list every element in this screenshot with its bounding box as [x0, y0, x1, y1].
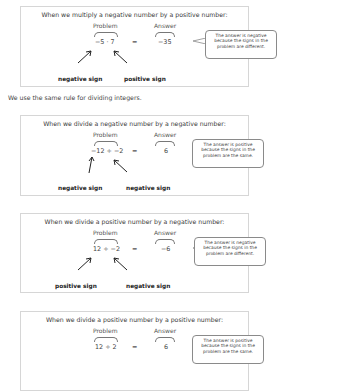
problem-expression: −5 · 7 [95, 38, 115, 46]
explanation-callout: The answer is positive because the signs… [192, 139, 264, 168]
left-sign-label: negative sign [58, 185, 102, 191]
rule-heading: When we divide a negative number by a ne… [21, 120, 248, 127]
answer-label: Answer [154, 327, 176, 334]
arrow-right-icon [113, 50, 129, 64]
rule-heading: When we divide a positive number by a po… [21, 316, 248, 323]
rule-box-divide-neg-neg: When we divide a negative number by a ne… [20, 115, 249, 196]
rule-box-divide-pos-pos: When we divide a positive number by a po… [20, 311, 249, 391]
equals-sign: = [132, 343, 137, 351]
answer-value: −35 [158, 38, 172, 46]
problem-label: Problem [93, 22, 118, 29]
intro-sentence: We use the same rule for dividing intege… [8, 94, 142, 101]
answer-label: Answer [154, 229, 176, 236]
problem-brace-icon [94, 239, 118, 244]
equals-sign: = [132, 245, 137, 253]
rule-heading: When we divide a positive number by a ne… [21, 218, 248, 225]
problem-label: Problem [93, 131, 118, 138]
explanation-callout: The answer is negative because the signs… [205, 30, 277, 59]
problem-brace-icon [94, 32, 118, 37]
problem-label: Problem [93, 229, 118, 236]
explanation-callout: The answer is positive because the signs… [192, 335, 264, 364]
arrow-left-icon [77, 50, 93, 64]
rule-box-multiply-neg-pos: When we multiply a negative number by a … [20, 6, 249, 87]
answer-brace-icon [155, 337, 175, 342]
rule-heading: When we multiply a negative number by a … [21, 11, 248, 18]
problem-brace-icon [94, 141, 118, 146]
problem-expression: 12 ÷ 2 [95, 343, 117, 351]
arrow-up-icon [87, 156, 95, 174]
arrow-left-icon [77, 257, 93, 271]
answer-brace-icon [155, 141, 175, 146]
arrow-right-icon [113, 159, 129, 173]
problem-expression: −12 ÷ −2 [91, 147, 123, 155]
problem-label: Problem [93, 327, 118, 334]
rule-box-divide-pos-neg: When we divide a positive number by a ne… [20, 213, 249, 293]
answer-label: Answer [154, 131, 176, 138]
problem-brace-icon [94, 337, 118, 342]
answer-brace-icon [155, 32, 175, 37]
answer-label: Answer [154, 22, 176, 29]
answer-value: −6 [161, 245, 170, 253]
answer-value: 6 [164, 147, 168, 155]
equals-sign: = [132, 147, 137, 155]
answer-brace-icon [155, 239, 175, 244]
left-sign-label: positive sign [55, 283, 97, 289]
answer-value: 6 [164, 343, 168, 351]
explanation-callout: The answer is negative because the signs… [194, 237, 266, 266]
problem-expression: 12 ÷ −2 [93, 245, 120, 253]
arrow-right-icon [113, 257, 129, 271]
left-sign-label: negative sign [58, 76, 102, 82]
right-sign-label: negative sign [126, 283, 170, 289]
right-sign-label: positive sign [124, 76, 166, 82]
right-sign-label: negative sign [126, 185, 170, 191]
equals-sign: = [132, 38, 137, 46]
